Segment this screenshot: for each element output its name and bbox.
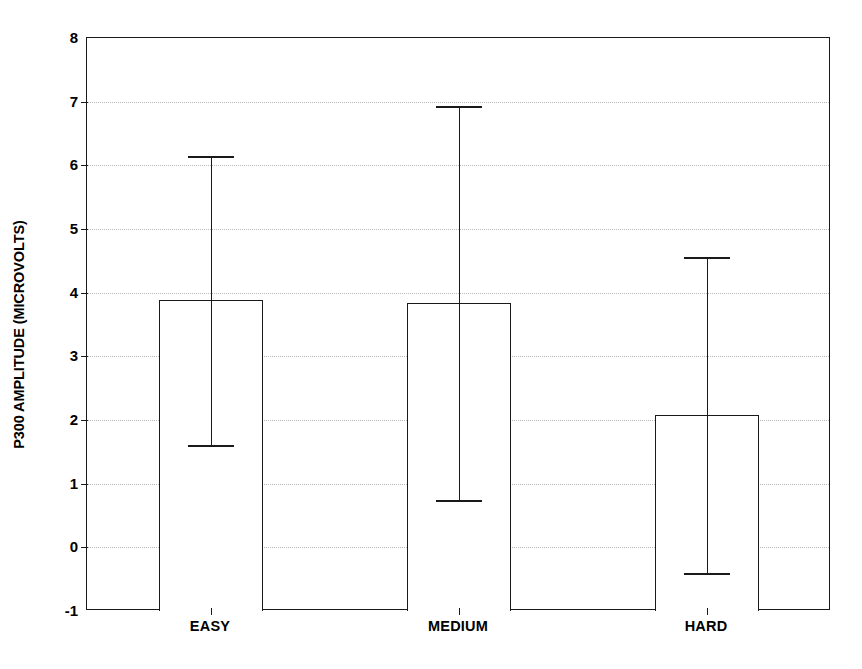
y-gridline [87,293,829,294]
error-bar-cap-upper [436,106,482,108]
y-tick-label: 3 [44,348,78,363]
error-bar-line [459,106,460,499]
error-bar-line [211,156,212,445]
x-axis-tick-labels: EASYMEDIUMHARD [86,618,830,648]
x-tick-mark [459,608,460,615]
error-bar-cap-lower [684,573,730,575]
y-tick-label: 8 [44,30,78,45]
x-tick-label: EASY [190,618,230,634]
y-tick-mark [81,165,88,166]
y-tick-label: 7 [44,93,78,108]
y-gridline [87,165,829,166]
y-axis-tick-labels: -1012345678 [38,0,78,669]
y-tick-mark [81,293,88,294]
y-tick-label: 4 [44,284,78,299]
x-tick-mark [707,608,708,615]
y-tick-label: 0 [44,539,78,554]
x-tick-mark [211,608,212,615]
y-axis-title: P300 AMPLITUDE (MICROVOLTS) [0,0,38,669]
y-gridline [87,229,829,230]
y-tick-mark [81,102,88,103]
y-tick-label: 1 [44,475,78,490]
error-bar-cap-upper [684,257,730,259]
plot-inner [87,38,829,609]
y-tick-mark [81,420,88,421]
x-tick-label: MEDIUM [428,618,488,634]
error-bar-cap-lower [436,500,482,502]
error-bar-cap-lower [188,445,234,447]
y-tick-label: 5 [44,221,78,236]
y-gridline [87,102,829,103]
p300-amplitude-bar-chart: P300 AMPLITUDE (MICROVOLTS) -1012345678 … [0,0,862,669]
error-bar-cap-upper [188,156,234,158]
y-tick-label: 2 [44,412,78,427]
y-tick-label: -1 [44,603,78,618]
y-tick-label: 6 [44,157,78,172]
y-tick-mark [81,547,88,548]
y-tick-mark [81,484,88,485]
plot-area [86,37,830,610]
y-tick-mark [81,356,88,357]
y-tick-mark [81,229,88,230]
x-tick-label: HARD [685,618,728,634]
error-bar-line [707,257,708,573]
